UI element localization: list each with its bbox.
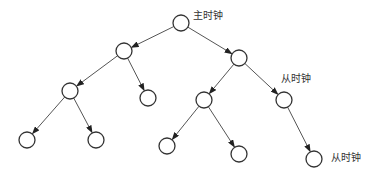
tree-edge-arrow [209, 64, 233, 93]
tree-node [62, 83, 78, 99]
tree-node [140, 90, 156, 106]
slave-clock-label-1: 从时钟 [281, 73, 311, 85]
tree-node [231, 50, 247, 66]
tree-node [276, 92, 292, 108]
tree-edge-arrow [33, 97, 65, 134]
tree-node [231, 146, 247, 162]
tree-node [19, 132, 35, 148]
tree-edge-arrow [128, 58, 144, 90]
tree-edge-arrow [132, 27, 174, 48]
tree-node [88, 132, 104, 148]
nodes-group [19, 15, 322, 167]
tree-node [116, 43, 132, 59]
tree-edge-arrow [74, 98, 92, 132]
slave-clock-label-2: 从时钟 [331, 152, 361, 164]
tree-edge-arrow [172, 106, 199, 139]
tree-edge-arrow [77, 56, 118, 86]
tree-node [306, 151, 322, 167]
tree-edge-arrow [208, 107, 234, 147]
tree-edge-arrow [245, 63, 278, 94]
tree-node [159, 138, 175, 154]
tree-edge-arrow [188, 27, 232, 53]
tree-node [173, 15, 189, 31]
tree-node [196, 92, 212, 108]
clock-tree-diagram: 主时钟 从时钟 从时钟 [0, 0, 374, 183]
master-clock-label: 主时钟 [193, 10, 223, 22]
tree-canvas [0, 0, 374, 183]
tree-edge-arrow [288, 107, 311, 151]
